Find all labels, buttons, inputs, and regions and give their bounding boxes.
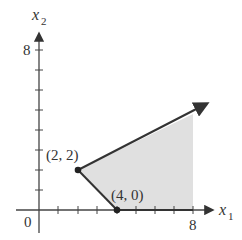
x-axis-label: x 1 (218, 201, 234, 222)
svg-text:2: 2 (41, 15, 47, 27)
feasible-region-diagram: (2, 2) (4, 0) 0 8 8 x 1 x 2 (0, 0, 242, 240)
origin-label: 0 (24, 214, 32, 230)
vertex-label-2-2: (2, 2) (46, 147, 79, 164)
svg-text:x: x (31, 6, 39, 23)
svg-text:x: x (218, 201, 226, 218)
y-axis-label: x 2 (31, 6, 47, 27)
x-tick-label-8: 8 (189, 217, 197, 233)
y-tick-label-8: 8 (23, 42, 31, 58)
vertex-2-2 (75, 167, 82, 174)
svg-text:1: 1 (228, 210, 234, 222)
vertex-label-4-0: (4, 0) (111, 187, 144, 204)
vertex-4-0 (114, 207, 121, 214)
